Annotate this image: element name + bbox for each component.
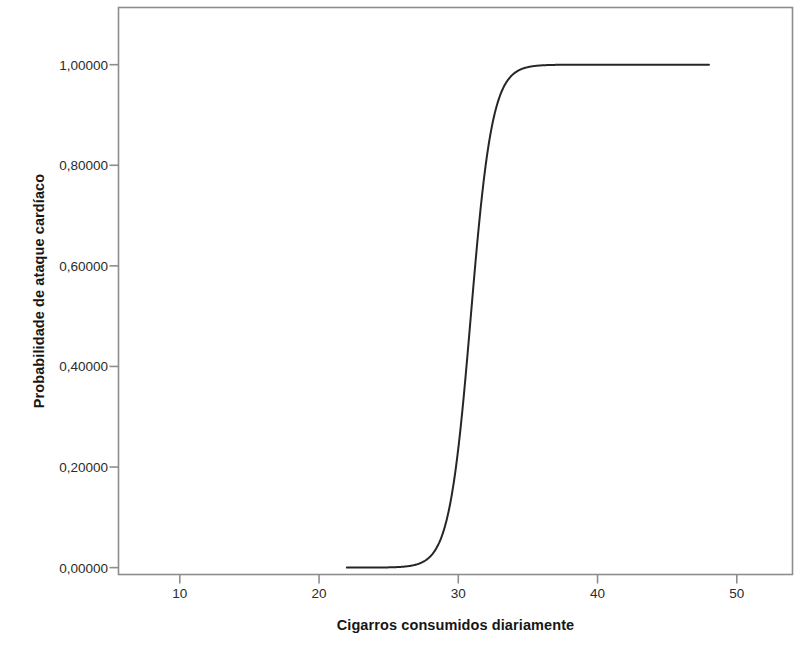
y-axis-ticks (110, 65, 119, 568)
x-axis-title: Cigarros consumidos diariamente (118, 617, 793, 633)
x-axis-tick-label: 20 (289, 586, 349, 601)
chart-figure: 0,000000,200000,400000,600000,800001,000… (0, 0, 802, 656)
x-axis-tick-label: 30 (428, 586, 488, 601)
plot-frame (119, 8, 793, 575)
x-axis-ticks (180, 575, 737, 584)
x-axis-tick-label: 40 (568, 586, 628, 601)
logistic-regression-plot (0, 0, 802, 656)
y-axis-title: Probabilidade de ataque cardíaco (26, 7, 52, 575)
x-axis-tick-label: 50 (707, 586, 767, 601)
x-axis-tick-label: 10 (150, 586, 210, 601)
